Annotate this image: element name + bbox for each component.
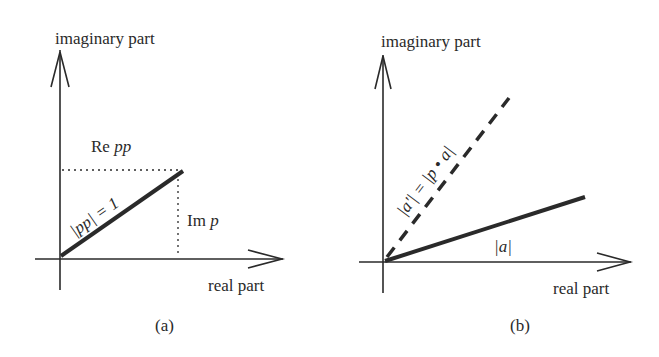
panel-a-x-axis-label: real part bbox=[208, 276, 264, 295]
panel-b-y-axis-label: imaginary part bbox=[381, 32, 481, 51]
panel-b-solid-label: |a| bbox=[494, 237, 512, 256]
panel-a-im-label: Im p bbox=[187, 211, 219, 230]
panel-a-caption: (a) bbox=[155, 316, 174, 335]
panel-a-y-axis-label: imaginary part bbox=[55, 29, 155, 48]
panel-b-vector-a-prime bbox=[387, 98, 509, 257]
panel-a: imaginary part real part Re pp Im p |pp|… bbox=[35, 29, 283, 335]
panel-a-re-label: Re pp bbox=[91, 137, 131, 156]
panel-b-x-axis-label: real part bbox=[553, 279, 609, 298]
diagram-canvas: imaginary part real part Re pp Im p |pp|… bbox=[0, 0, 659, 357]
panel-b: imaginary part real part |a'| = |p • a| … bbox=[359, 32, 631, 335]
panel-a-vector-pp bbox=[61, 171, 183, 256]
panel-b-caption: (b) bbox=[510, 316, 530, 335]
panel-b-dashed-label: |a'| = |p • a| bbox=[393, 142, 458, 219]
